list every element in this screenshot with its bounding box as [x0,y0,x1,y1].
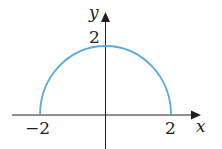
x-axis-label: x [196,118,206,135]
y-axis-arrow-icon [101,12,110,22]
y-tick-label-2: 2 [89,29,100,46]
x-tick-label-2: 2 [165,120,176,137]
x-tick-label-neg2: −2 [25,120,50,137]
semicircle-graph: y 2 −2 2 x [0,0,222,149]
y-axis-label: y [89,4,99,21]
